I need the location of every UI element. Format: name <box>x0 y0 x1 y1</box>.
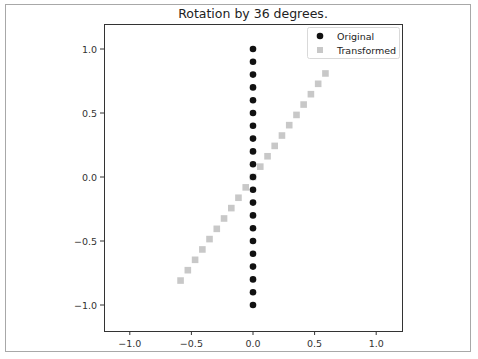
legend-label-transformed: Transformed <box>336 45 396 56</box>
legend-marker-transformed-icon <box>317 47 323 53</box>
data-point-original <box>250 212 257 219</box>
data-point-original <box>250 148 257 155</box>
data-point-original <box>250 225 257 232</box>
y-tick-label: 0.5 <box>82 108 97 119</box>
y-tick-label: −1.0 <box>74 300 97 311</box>
data-point-original <box>250 135 257 142</box>
data-point-transformed <box>264 153 271 160</box>
data-point-transformed <box>199 246 206 253</box>
data-point-original <box>250 110 257 117</box>
data-point-transformed <box>315 81 322 88</box>
data-point-transformed <box>257 163 264 170</box>
x-tick-label: 1.0 <box>369 338 384 349</box>
data-point-transformed <box>185 267 192 274</box>
data-point-original <box>250 59 257 66</box>
x-tick-label: 0.0 <box>245 338 260 349</box>
legend-marker-original-icon <box>317 33 324 40</box>
data-point-original <box>250 161 257 168</box>
data-point-original <box>250 46 257 53</box>
data-point-original <box>250 187 257 194</box>
scatter-chart: Rotation by 36 degrees. −1.0−0.50.00.51.… <box>0 0 478 359</box>
data-point-original <box>250 97 257 104</box>
legend: Original Transformed <box>308 28 400 59</box>
data-point-transformed <box>213 226 220 233</box>
data-point-transformed <box>177 277 184 284</box>
data-point-original <box>250 276 257 283</box>
data-point-transformed <box>308 91 315 98</box>
data-point-transformed <box>192 257 199 264</box>
data-point-original <box>250 123 257 130</box>
data-point-original <box>250 289 257 296</box>
data-point-transformed <box>206 236 213 243</box>
data-point-transformed <box>235 194 242 201</box>
data-point-transformed <box>293 112 300 119</box>
data-point-transformed <box>242 184 249 191</box>
data-point-transformed <box>300 101 307 108</box>
y-tick-label: 0.0 <box>82 172 97 183</box>
data-point-original <box>250 302 257 309</box>
series-original <box>250 46 257 309</box>
data-point-original <box>250 199 257 206</box>
x-axis-ticks: −1.0−0.50.00.51.0 <box>118 331 383 349</box>
y-tick-label: 1.0 <box>82 44 97 55</box>
y-axis-ticks: 1.00.50.0−0.5−1.0 <box>74 44 104 311</box>
data-point-original <box>250 84 257 91</box>
data-point-original <box>250 174 257 181</box>
data-point-original <box>250 238 257 245</box>
x-tick-label: −1.0 <box>118 338 141 349</box>
data-point-transformed <box>228 205 235 212</box>
data-point-transformed <box>322 70 329 77</box>
legend-label-original: Original <box>337 31 374 42</box>
x-tick-label: −0.5 <box>180 338 203 349</box>
data-point-transformed <box>221 215 228 222</box>
y-tick-label: −0.5 <box>74 236 97 247</box>
data-point-original <box>250 263 257 270</box>
data-point-original <box>250 251 257 258</box>
chart-title: Rotation by 36 degrees. <box>178 6 328 21</box>
data-point-transformed <box>286 122 293 129</box>
data-point-transformed <box>271 143 278 150</box>
data-point-original <box>250 71 257 78</box>
x-tick-label: 0.5 <box>307 338 322 349</box>
data-point-transformed <box>279 132 286 139</box>
